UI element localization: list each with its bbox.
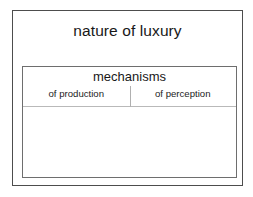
column-header-of-perception: of perception	[130, 87, 237, 100]
column-header-of-production: of production	[23, 87, 130, 100]
mechanisms-header-label: mechanisms	[23, 69, 236, 85]
cell-of-production	[23, 107, 130, 177]
diagram-canvas: nature of luxury mechanisms of productio…	[0, 0, 253, 197]
cell-of-perception	[130, 107, 237, 177]
content-row	[23, 107, 236, 177]
outer-frame: nature of luxury mechanisms of productio…	[12, 10, 243, 186]
mechanisms-box: mechanisms of production of perception	[22, 66, 237, 178]
page-title: nature of luxury	[13, 21, 242, 40]
